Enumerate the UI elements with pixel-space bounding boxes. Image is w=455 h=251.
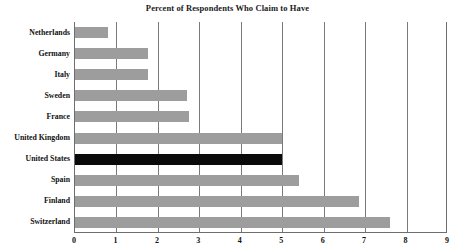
- x-tick-label-3: 3: [196, 236, 200, 245]
- bar-row: [75, 22, 446, 43]
- category-label-spain: Spain: [0, 175, 70, 184]
- category-label-switzerland: Switzerland: [0, 217, 70, 226]
- bar-finland: [75, 196, 359, 207]
- x-tick-label-6: 6: [321, 236, 325, 245]
- category-label-sweden: Sweden: [0, 91, 70, 100]
- bar-switzerland: [75, 217, 390, 228]
- x-tick-label-2: 2: [155, 236, 159, 245]
- category-label-italy: Italy: [0, 70, 70, 79]
- bar-row: [75, 149, 446, 170]
- bar-sweden: [75, 90, 187, 101]
- x-tick-label-5: 5: [279, 236, 283, 245]
- x-tick-label-4: 4: [238, 236, 242, 245]
- x-tick-label-9: 9: [445, 236, 449, 245]
- bar-row: [75, 212, 446, 233]
- bar-row: [75, 106, 446, 127]
- bar-italy: [75, 69, 148, 80]
- category-label-france: France: [0, 112, 70, 121]
- x-tick-label-7: 7: [362, 236, 366, 245]
- category-label-germany: Germany: [0, 49, 70, 58]
- bar-united-kingdom: [75, 133, 282, 144]
- value-axis-labels: 0123456789: [0, 236, 455, 250]
- category-label-netherlands: Netherlands: [0, 28, 70, 37]
- bar-united-states: [75, 154, 282, 165]
- bar-spain: [75, 175, 299, 186]
- bar-row: [75, 170, 446, 191]
- bar-row: [75, 191, 446, 212]
- category-label-united-kingdom: United Kingdom: [0, 133, 70, 142]
- bar-germany: [75, 48, 148, 59]
- chart-title: Percent of Respondents Who Claim to Have: [0, 3, 455, 13]
- x-tick-label-1: 1: [113, 236, 117, 245]
- chart-page: Percent of Respondents Who Claim to Have…: [0, 0, 455, 251]
- bar-france: [75, 111, 189, 122]
- x-tick-label-8: 8: [404, 236, 408, 245]
- bar-netherlands: [75, 27, 108, 38]
- bars-container: [75, 22, 446, 232]
- plot-area: [74, 22, 447, 233]
- bar-row: [75, 85, 446, 106]
- category-label-united-states: United States: [0, 154, 70, 163]
- bar-row: [75, 128, 446, 149]
- bar-row: [75, 64, 446, 85]
- x-tick-label-0: 0: [72, 236, 76, 245]
- bar-row: [75, 43, 446, 64]
- category-axis-labels: NetherlandsGermanyItalySwedenFranceUnite…: [0, 22, 70, 233]
- category-label-finland: Finland: [0, 196, 70, 205]
